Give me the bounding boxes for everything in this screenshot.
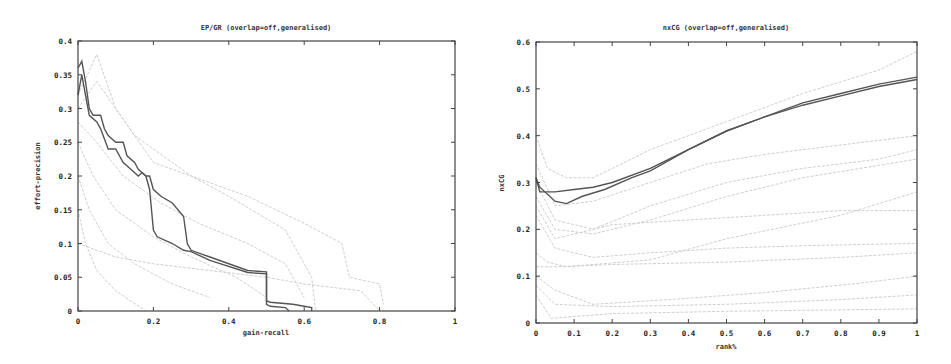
chart-title: EP/GR (overlap=off,generalised)	[201, 24, 332, 32]
plot-frame	[78, 41, 455, 311]
series-line-other-run-g	[78, 244, 380, 312]
series-line-other-run-e	[78, 176, 210, 298]
x-tick-label: 0.8	[834, 329, 848, 338]
x-tick-label: 0.9	[872, 329, 886, 338]
y-tick-label: 0.6	[516, 38, 530, 47]
x-axis-label: gain-recall	[243, 329, 289, 337]
x-tick-label: 0.3	[644, 329, 658, 338]
y-tick-label: 0.5	[516, 85, 530, 94]
x-tick-label: 1	[915, 329, 920, 338]
series-line-other-run-i	[536, 276, 917, 304]
series-line-highlighted-run-1	[78, 61, 312, 311]
series-line-highlighted-run-2	[536, 80, 917, 204]
nxcg-chart: nxCG (overlap=off,generalised) 00.10.20.…	[498, 24, 920, 351]
y-tick-label: 0.1	[58, 240, 72, 249]
y-tick-label: 0.25	[54, 138, 72, 147]
y-axis-label: effort-precision	[34, 142, 42, 209]
series-line-other-run-j	[536, 286, 917, 307]
x-tick-label: 0.8	[373, 317, 387, 326]
y-tick-label: 0.2	[58, 172, 72, 181]
series-line-other-run-a	[536, 51, 917, 177]
y-tick-label: 0	[525, 319, 530, 328]
x-tick-label: 0.2	[147, 317, 161, 326]
figure: EP/GR (overlap=off,generalised) 00.050.1…	[0, 0, 951, 364]
series-line-other-run-a	[78, 82, 383, 305]
x-tick-label: 0	[534, 329, 539, 338]
y-tick-label: 0.1	[516, 272, 530, 281]
series-line-other-run-k	[536, 295, 917, 318]
x-axis-label: rank%	[715, 343, 737, 351]
x-tick-label: 0.6	[297, 317, 311, 326]
plot-series	[78, 55, 383, 312]
x-tick-label: 0	[76, 317, 81, 326]
series-line-other-run-f	[536, 215, 917, 257]
ep-gr-chart: EP/GR (overlap=off,generalised) 00.050.1…	[34, 24, 458, 337]
x-tick-label: 0.4	[682, 329, 696, 338]
y-tick-label: 0.3	[516, 179, 530, 188]
y-axis-ticks: 00.10.20.30.40.50.6	[516, 38, 917, 328]
y-tick-label: 0.05	[54, 273, 72, 282]
series-line-other-run-e	[536, 206, 917, 239]
series-line-highlighted-run-2	[78, 75, 289, 311]
series-line-other-run-b	[78, 55, 316, 312]
series-line-highlighted-run-1	[536, 77, 917, 192]
y-tick-label: 0.4	[58, 37, 72, 46]
chart-title: nxCG (overlap=off,generalised)	[663, 24, 789, 32]
x-tick-label: 0.7	[796, 329, 810, 338]
x-tick-label: 0.6	[758, 329, 772, 338]
y-tick-label: 0.4	[516, 132, 530, 141]
y-axis-label: nxCG	[498, 175, 506, 192]
y-axis-ticks: 00.050.10.150.20.250.30.350.4	[54, 37, 455, 316]
x-axis-ticks: 00.10.20.30.40.50.60.70.80.91	[534, 42, 920, 338]
y-tick-label: 0	[67, 307, 72, 316]
series-line-other-run-c	[536, 150, 917, 230]
x-tick-label: 1	[453, 317, 458, 326]
x-tick-label: 0.2	[605, 329, 619, 338]
x-tick-label: 0.4	[222, 317, 236, 326]
y-tick-label: 0.3	[58, 105, 72, 114]
x-tick-label: 0.5	[720, 329, 734, 338]
series-line-other-run-d	[536, 159, 917, 234]
series-line-other-run-b	[536, 136, 917, 206]
plot-series	[536, 51, 917, 318]
y-tick-label: 0.15	[54, 206, 72, 215]
y-tick-label: 0.2	[516, 225, 530, 234]
y-tick-label: 0.35	[54, 71, 72, 80]
x-tick-label: 0.1	[567, 329, 581, 338]
